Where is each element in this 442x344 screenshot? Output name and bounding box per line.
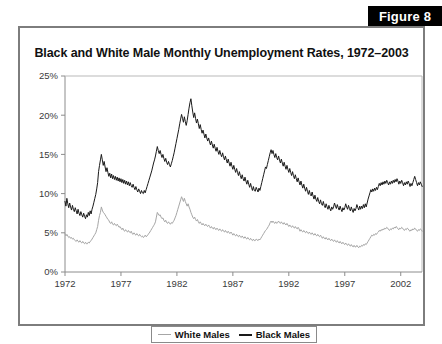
x-axis-tick-label: 2002 (390, 278, 411, 289)
y-axis-tick-label: 20% (39, 110, 59, 121)
chart-legend: White Males Black Males (151, 326, 317, 343)
y-axis-tick-label: 5% (44, 227, 58, 238)
unemployment-line-chart: 0%5%10%15%20%25% 19721977198219871992199… (20, 28, 423, 324)
x-axis-tick-label: 1977 (110, 278, 131, 289)
series-line-white-males (65, 197, 422, 248)
figure-frame: Black and White Male Monthly Unemploymen… (18, 26, 425, 326)
y-axis-tick-label: 15% (39, 149, 59, 160)
y-axis-tick-label: 0% (44, 266, 58, 277)
series-line-black-males (65, 99, 422, 219)
figure-badge-label: Figure 8 (379, 9, 431, 24)
y-axis: 0%5%10%15%20%25% (39, 70, 422, 277)
legend-swatch-white-males (158, 334, 171, 335)
chart-plot-area: 0%5%10%15%20%25% 19721977198219871992199… (20, 28, 423, 324)
x-axis-tick-label: 1987 (222, 278, 243, 289)
x-axis-tick-label: 1997 (334, 278, 355, 289)
x-axis-tick-label: 1992 (278, 278, 299, 289)
y-axis-tick-label: 10% (39, 188, 59, 199)
x-axis: 1972197719821987199219972002 (54, 272, 422, 289)
legend-item-white-males: White Males (158, 329, 230, 340)
legend-label-white-males: White Males (175, 329, 230, 340)
y-axis-tick-label: 25% (39, 70, 59, 81)
legend-item-black-males: Black Males (239, 329, 310, 340)
legend-swatch-black-males (239, 334, 252, 336)
x-axis-tick-label: 1972 (54, 278, 75, 289)
figure-badge: Figure 8 (368, 6, 442, 26)
legend-label-black-males: Black Males (256, 329, 310, 340)
x-axis-tick-label: 1982 (166, 278, 187, 289)
chart-series-group (65, 99, 422, 248)
